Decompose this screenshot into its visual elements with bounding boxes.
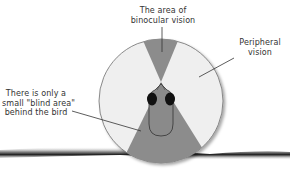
peripheral-vision-label: Peripheral vision	[234, 38, 286, 57]
blind-area-label: There is only a small "blind area" behin…	[2, 89, 70, 118]
vision-diagram	[0, 0, 290, 169]
left-eye-icon	[147, 93, 157, 106]
right-eye-icon	[165, 93, 175, 106]
bird-body	[149, 84, 173, 136]
binocular-vision-label: The area of binocular vision	[128, 6, 198, 25]
